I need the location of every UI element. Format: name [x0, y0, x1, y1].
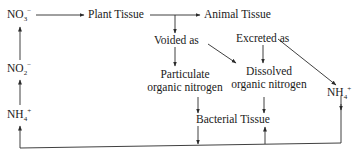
node-bacterial-tissue: Bacterial Tissue [196, 113, 270, 126]
node-no2: NO2− [7, 62, 31, 75]
arrow-voided-to-dissolved [208, 44, 236, 63]
node-excreted-as: Excreted as [236, 32, 289, 45]
node-animal-tissue: Animal Tissue [204, 8, 271, 21]
node-no3: NO3− [7, 8, 31, 21]
node-nh4-right: NH4+ [327, 86, 351, 99]
node-plant-tissue: Plant Tissue [88, 8, 144, 21]
node-dissolved-organic-nitrogen: Dissolved organic nitrogen [224, 65, 314, 91]
node-voided-as: Voided as [154, 34, 199, 47]
bottom-return-line [20, 143, 341, 148]
node-nh4-left: NH4+ [7, 108, 31, 121]
node-particulate-organic-nitrogen: Particulate organic nitrogen [140, 68, 230, 94]
